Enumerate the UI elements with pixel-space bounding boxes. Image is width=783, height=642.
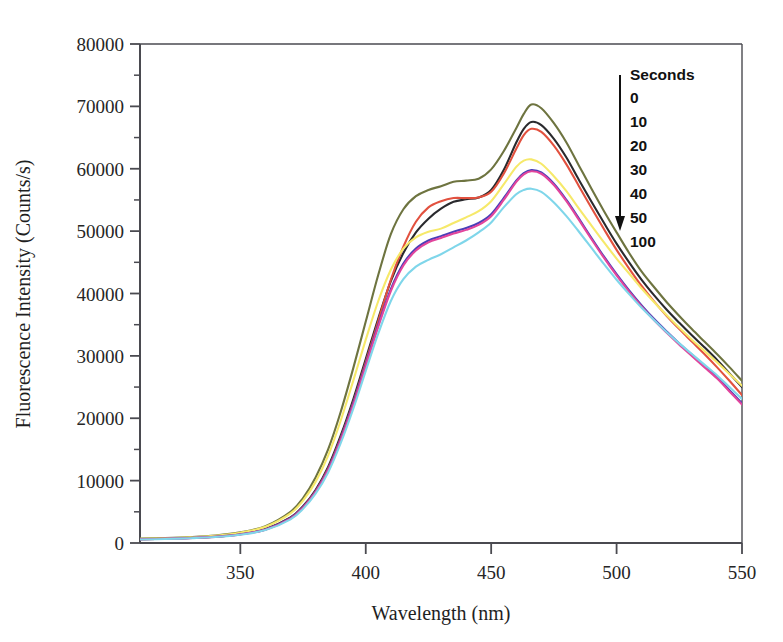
legend-entry-40: 40 [630,185,647,202]
legend-entry-50: 50 [630,209,647,226]
series-line-20s [140,129,742,540]
y-tick-label: 50000 [77,221,125,242]
y-tick-label: 0 [115,533,125,554]
legend-entries: 01020304050100 [630,89,656,250]
fluorescence-spectrum-figure: 0100002000030000400005000060000700008000… [0,0,783,642]
y-axis-ticks [130,44,140,543]
data-series-group [140,104,742,539]
y-tick-label: 10000 [77,471,125,492]
y-axis-title: Fluorescence Intensity (Counts/s) [12,160,35,429]
x-tick-label: 400 [352,562,381,583]
legend-entry-100: 100 [630,233,656,250]
x-tick-label: 500 [602,562,631,583]
x-axis-title: Wavelength (nm) [372,602,511,625]
y-tick-label: 60000 [77,159,125,180]
legend-title: Seconds [630,66,695,83]
x-tick-label: 350 [226,562,255,583]
legend-entry-20: 20 [630,137,647,154]
y-tick-label: 30000 [77,346,125,367]
y-tick-label: 40000 [77,284,125,305]
chart-canvas: 0100002000030000400005000060000700008000… [0,0,783,642]
series-line-40s [140,170,742,539]
x-tick-label: 450 [477,562,506,583]
y-axis-tick-labels: 0100002000030000400005000060000700008000… [77,34,125,554]
series-line-50s [140,171,742,539]
legend-entry-30: 30 [630,161,647,178]
legend-arrow-head-icon [615,216,625,231]
series-line-30s [140,159,742,539]
y-tick-label: 70000 [77,96,125,117]
y-tick-label: 80000 [77,34,125,55]
legend: Seconds 01020304050100 [615,66,695,250]
series-line-0s [140,104,742,538]
y-tick-label: 20000 [77,408,125,429]
x-tick-label: 550 [728,562,757,583]
x-axis-tick-labels: 350400450500550 [226,562,756,583]
legend-entry-10: 10 [630,113,647,130]
x-axis-ticks [240,543,742,554]
legend-entry-0: 0 [630,89,639,106]
series-line-10s [140,122,742,539]
